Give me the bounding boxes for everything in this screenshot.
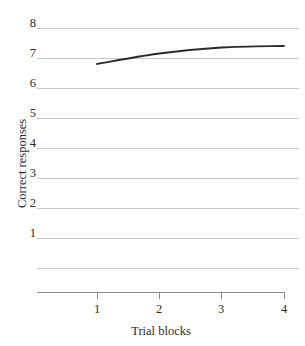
xtick-mark-1 <box>97 292 98 299</box>
xtick-mark-3 <box>221 292 222 299</box>
x-axis-title: Trial blocks <box>81 325 241 338</box>
data-series-correct-responses <box>0 0 305 346</box>
xtick-mark-4 <box>284 292 285 299</box>
xtick-mark-2 <box>159 292 160 299</box>
xtick-label-1: 1 <box>89 303 105 316</box>
x-axis-line <box>37 292 284 293</box>
xtick-label-3: 3 <box>213 303 229 316</box>
xtick-label-4: 4 <box>276 303 292 316</box>
curve-path <box>97 46 284 64</box>
xtick-label-2: 2 <box>151 303 167 316</box>
line-chart: 8 7 6 5 4 3 2 1 Correct responses 1 2 3 … <box>0 0 305 346</box>
